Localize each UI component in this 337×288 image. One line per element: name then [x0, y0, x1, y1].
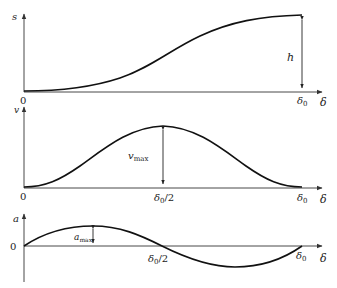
displacement-curve [24, 15, 302, 91]
half-delta0-label-2: δ0/2 [154, 192, 174, 205]
h-label: h [287, 51, 294, 64]
velocity-panel: v vmax 0 δ0/2 δ0 δ [14, 105, 327, 206]
origin-label-2: 0 [20, 191, 26, 202]
delta-axis-label-3: δ [320, 252, 327, 265]
origin-label-1: 0 [20, 95, 26, 106]
acceleration-panel: a amax 0 δ0/2 δ0 δ [10, 213, 327, 282]
origin-label-3: 0 [10, 241, 16, 252]
v-axis-label: v [14, 105, 19, 115]
delta0-label-2: δ0 [297, 192, 308, 205]
delta-axis-label-1: δ [320, 96, 327, 109]
vmax-label: vmax [128, 150, 148, 163]
amax-label: amax [74, 232, 93, 243]
delta-axis-label-2: δ [320, 193, 327, 206]
a-axis-label: a [13, 213, 19, 224]
motion-curves-diagram: s h 0 δ0 δ v vmax 0 δ0/2 δ0 δ a amax [0, 0, 337, 288]
delta0-label-3: δ0 [296, 250, 307, 263]
half-delta0-label-3: δ0/2 [148, 253, 168, 266]
displacement-panel: s h 0 δ0 δ [12, 11, 327, 109]
delta0-label-1: δ0 [297, 95, 308, 108]
s-axis-label: s [12, 11, 17, 22]
